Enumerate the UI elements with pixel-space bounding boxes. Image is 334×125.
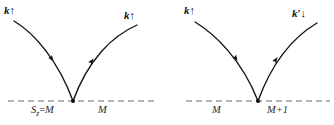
interaction-vertex-dot: [256, 99, 260, 103]
outgoing-momentum-label: k↑: [124, 10, 135, 21]
outgoing-electron-line: [258, 23, 317, 101]
incoming-momentum-label: k↑: [4, 5, 15, 16]
state-value: M: [45, 104, 54, 115]
panel-spin-flip-vertex: k↑ k′↓ M M+1: [167, 0, 334, 125]
right-state-label: M+1: [267, 105, 288, 116]
outgoing-momentum-label: k′↓: [292, 8, 306, 19]
outgoing-electron-line: [73, 25, 137, 101]
scattering-vertex-figure: k↑ k↑ Sz=M M k↑ k′↓ M M+1: [0, 0, 334, 125]
right-panel-graphic: [167, 0, 334, 125]
left-state-label: M: [212, 105, 221, 116]
incoming-electron-line: [195, 22, 258, 101]
interaction-vertex-dot: [71, 99, 75, 103]
right-state-label: M: [98, 105, 107, 116]
incoming-momentum-label: k↑: [184, 5, 195, 16]
left-state-label: Sz=M: [31, 105, 54, 118]
left-panel-graphic: [0, 0, 167, 125]
panel-spin-conserving-vertex: k↑ k↑ Sz=M M: [0, 0, 167, 125]
incoming-electron-line: [14, 21, 73, 101]
